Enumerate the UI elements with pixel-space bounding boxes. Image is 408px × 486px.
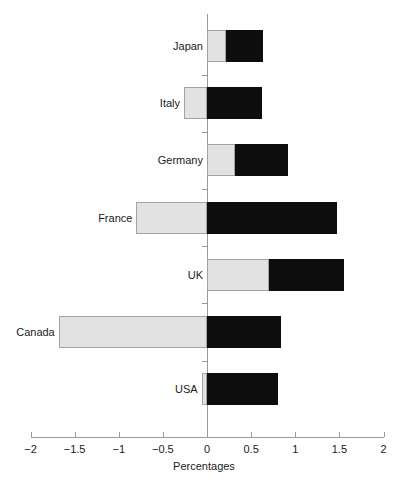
category-label-france: France xyxy=(12,202,132,234)
bar-row xyxy=(0,259,408,291)
x-axis-tick-label: −2 xyxy=(11,443,51,455)
x-axis-tick xyxy=(119,432,120,437)
x-axis-tick xyxy=(207,432,208,437)
x-axis-tick xyxy=(31,432,32,437)
bar-segment-dark xyxy=(207,202,337,234)
bar-segment-light xyxy=(207,30,226,62)
bar-segment-light xyxy=(59,316,207,348)
category-label-canada: Canada xyxy=(0,316,55,348)
y-axis-tick xyxy=(202,189,207,190)
bar-row xyxy=(0,316,408,348)
x-axis-tick xyxy=(339,432,340,437)
category-label-italy: Italy xyxy=(60,87,180,119)
x-axis-tick xyxy=(251,432,252,437)
bar-segment-dark xyxy=(207,373,278,405)
y-axis-tick xyxy=(202,303,207,304)
x-axis-tick-label: −0.5 xyxy=(143,443,183,455)
horizontal-stacked-bar-chart: JapanItalyGermanyFranceUKCanadaUSA−2−1.5… xyxy=(0,0,408,486)
bar-segment-dark xyxy=(207,316,281,348)
x-axis-tick-label: −1.5 xyxy=(55,443,95,455)
x-axis-title: Percentages xyxy=(0,460,408,472)
category-label-japan: Japan xyxy=(83,30,203,62)
x-axis-tick-label: 1.5 xyxy=(319,443,359,455)
bar-row xyxy=(0,30,408,62)
y-axis-tick xyxy=(202,246,207,247)
plot-area: JapanItalyGermanyFranceUKCanadaUSA−2−1.5… xyxy=(0,0,408,486)
bar-segment-light xyxy=(184,87,207,119)
y-axis-tick xyxy=(202,361,207,362)
x-axis-tick xyxy=(384,432,385,437)
bar-row xyxy=(0,144,408,176)
bar-row xyxy=(0,373,408,405)
bar-segment-dark xyxy=(226,30,262,62)
x-axis-tick-label: 0.5 xyxy=(231,443,271,455)
x-axis-tick xyxy=(163,432,164,437)
x-axis-tick-label: 1 xyxy=(275,443,315,455)
bar-segment-light xyxy=(207,259,269,291)
bar-segment-dark xyxy=(269,259,344,291)
x-axis-line xyxy=(31,437,384,438)
bar-segment-light xyxy=(207,144,235,176)
x-axis-tick-label: −1 xyxy=(99,443,139,455)
bar-segment-light xyxy=(136,202,207,234)
x-axis-tick-label: 0 xyxy=(187,443,227,455)
category-label-uk: UK xyxy=(83,259,203,291)
bar-segment-dark xyxy=(235,144,288,176)
x-axis-tick-label: 2 xyxy=(364,443,404,455)
category-label-germany: Germany xyxy=(83,144,203,176)
category-label-usa: USA xyxy=(78,373,198,405)
y-axis-tick xyxy=(202,132,207,133)
bar-segment-dark xyxy=(207,87,262,119)
x-axis-tick xyxy=(75,432,76,437)
x-axis-tick xyxy=(295,432,296,437)
y-axis-tick xyxy=(202,75,207,76)
